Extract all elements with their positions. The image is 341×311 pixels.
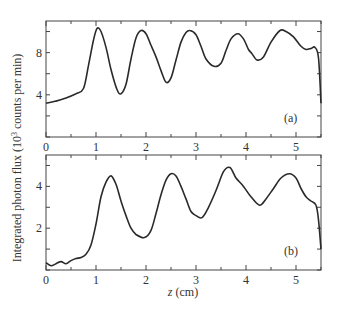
x-tick-label: 1 bbox=[93, 273, 99, 287]
panel-label-a: (a) bbox=[284, 111, 297, 125]
y-tick-label: 4 bbox=[36, 179, 42, 193]
y-tick-label: 4 bbox=[36, 88, 42, 102]
x-tick-label: 0 bbox=[43, 140, 49, 154]
y-tick-label: 2 bbox=[36, 221, 42, 235]
chart-figure: Integrated photon flux (103 counts per m… bbox=[0, 0, 341, 311]
x-tick-label: 3 bbox=[193, 140, 199, 154]
panel-label-b: (b) bbox=[284, 244, 298, 258]
x-tick-label: 5 bbox=[293, 140, 299, 154]
x-tick-label: 1 bbox=[93, 140, 99, 154]
y-axis-label: Integrated photon flux (103 counts per m… bbox=[10, 54, 25, 263]
data-line bbox=[46, 167, 321, 266]
data-line bbox=[46, 28, 321, 103]
panel-a: 01234548(a) bbox=[36, 21, 321, 154]
x-tick-label: 5 bbox=[293, 273, 299, 287]
plot-frame bbox=[46, 21, 321, 137]
x-tick-label: 0 bbox=[43, 273, 49, 287]
x-tick-label: 2 bbox=[143, 273, 149, 287]
y-tick-label: 8 bbox=[36, 46, 42, 60]
panel-b: 01234524(b) bbox=[36, 155, 321, 287]
x-tick-label: 4 bbox=[243, 273, 249, 287]
x-tick-label: 2 bbox=[143, 140, 149, 154]
x-axis-label: z (cm) bbox=[167, 285, 198, 299]
x-tick-label: 4 bbox=[243, 140, 249, 154]
